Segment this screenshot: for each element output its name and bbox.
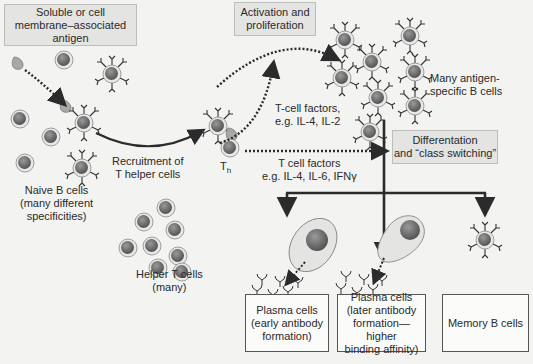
th-label: Th [220,160,231,177]
tcell-factors-label-1: T-cell factors, e.g. IL-4, IL-2 [275,102,340,128]
antigen-box: Soluble or cell membrane–associated anti… [4,4,137,46]
activation-box: Activation and proliferation [234,2,316,36]
helper-t-label: Helper T cells (many) [136,268,203,294]
plasma-late-box: Plasma cells (later antibody formation—h… [337,294,426,352]
recruitment-label: Recruitment of T helper cells [112,155,184,181]
naive-b-label: Naive B cells (many different specificit… [20,184,93,223]
plasma-early-box: Plasma cells (early antibody formation) [245,294,329,352]
plasma-cell-late [375,216,424,280]
plasma-cell-early [279,209,347,282]
memory-box: Memory B cells [442,294,529,352]
many-b-label: Many antigen- specific B cells [430,72,502,98]
tcell-factors-label-2: T cell factors e.g. IL-4, IL-6, IFNγ [262,157,357,183]
differentiation-box: Differentation and “class switching” [392,130,498,164]
